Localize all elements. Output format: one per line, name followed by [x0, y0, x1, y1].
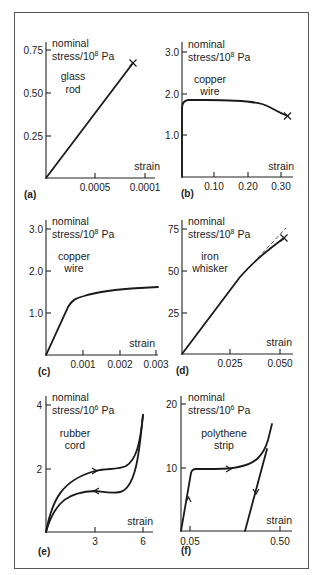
- y-tick-label: 2.0: [165, 89, 179, 100]
- material-label: cord: [65, 439, 86, 451]
- panel-e: 4 2 3 6 nominal stress/106 Pa rubber cor…: [36, 391, 153, 557]
- y-tick-label: 0.50: [24, 88, 44, 99]
- y-axis-title: nominal: [52, 37, 89, 49]
- fracture-mark-icon: [130, 60, 137, 67]
- x-tick-label: 3: [92, 536, 98, 547]
- material-label: copper: [58, 250, 91, 262]
- y-tick-label: 3.0: [29, 224, 43, 235]
- panel-f: 20 10 0.05 0.50 nominal stress/106 Pa po…: [166, 391, 292, 556]
- material-label: wire: [63, 262, 83, 274]
- y-axis-title: nominal: [52, 391, 89, 403]
- panel-label: (e): [38, 546, 50, 557]
- y-tick-label: 50: [168, 266, 180, 277]
- x-tick-label: 0.050: [267, 358, 292, 369]
- material-label: copper: [194, 73, 227, 85]
- panel-label: (f): [181, 545, 191, 556]
- y-tick-label: 75: [168, 224, 180, 235]
- stress-strain-figure: 0.75 0.50 0.25 0.0005 0.0001 nominal str…: [0, 0, 315, 575]
- y-axis-title: nominal: [188, 391, 225, 403]
- y-axis-title: nominal: [52, 215, 89, 227]
- x-axis-title: strain: [127, 515, 153, 527]
- x-tick-label: 0.20: [238, 181, 258, 192]
- y-tick-label: 2: [36, 464, 42, 475]
- y-tick-label: 20: [166, 399, 178, 410]
- panel-c: 3.0 2.0 1.0 0.001 0.002 0.003 nominal st…: [29, 215, 169, 377]
- material-label: polythene: [201, 427, 247, 439]
- y-tick-label: 0.75: [24, 45, 44, 56]
- y-axis-unit: stress/108 Pa: [52, 228, 114, 240]
- y-tick-label: 1.0: [165, 130, 179, 141]
- x-axis-title: strain: [129, 337, 155, 349]
- panel-a: 0.75 0.50 0.25 0.0005 0.0001 nominal str…: [24, 37, 161, 200]
- y-axis-title: nominal: [188, 38, 225, 50]
- y-axis-title: nominal: [188, 215, 225, 227]
- y-axis-unit: stress/108 Pa: [188, 228, 250, 240]
- x-tick-label: 0.025: [217, 358, 242, 369]
- material-label: glass: [61, 70, 86, 82]
- x-tick-label: 0.002: [107, 359, 132, 370]
- y-tick-label: 0.25: [24, 131, 44, 142]
- material-label: strip: [214, 439, 234, 451]
- panel-label: (a): [24, 189, 36, 200]
- x-axis-title: strain: [266, 336, 292, 348]
- y-tick-label: 3.0: [165, 47, 179, 58]
- x-tick-label: 0.50: [270, 536, 290, 547]
- panel-label: (c): [38, 366, 50, 377]
- x-tick-label: 0.10: [204, 181, 224, 192]
- x-tick-label: 0.30: [271, 181, 291, 192]
- x-axis-title: strain: [266, 514, 292, 526]
- x-axis-title: strain: [134, 160, 160, 172]
- material-label: rubber: [60, 427, 91, 439]
- y-axis-unit: stress/106 Pa: [52, 404, 114, 416]
- panel-b: 3.0 2.0 1.0 0.10 0.20 0.30 nominal stres…: [165, 38, 294, 199]
- x-tick-label: 0.001: [70, 359, 95, 370]
- material-label: iron: [201, 250, 219, 262]
- x-axis-title: strain: [268, 160, 294, 172]
- material-label: wire: [199, 85, 219, 97]
- panel-d: 75 50 25 0.025 0.050 nominal stress/108 …: [168, 215, 293, 376]
- y-tick-label: 2.0: [29, 266, 43, 277]
- x-tick-label: 0.003: [143, 359, 168, 370]
- material-label: rod: [65, 83, 80, 95]
- y-tick-label: 10: [166, 463, 178, 474]
- fracture-mark-icon: [284, 113, 291, 120]
- panel-label: (b): [181, 188, 194, 199]
- y-axis-unit: stress/108 Pa: [52, 50, 114, 62]
- unloading-curve: [245, 449, 267, 531]
- x-tick-label: 6: [140, 536, 146, 547]
- panel-label: (d): [176, 365, 189, 376]
- y-tick-label: 4: [36, 400, 42, 411]
- fracture-mark-icon: [281, 235, 288, 242]
- material-label: whisker: [191, 262, 228, 274]
- y-tick-label: 25: [168, 308, 180, 319]
- x-tick-label: 0.0001: [130, 182, 161, 193]
- y-axis-unit: stress/106 Pa: [188, 404, 250, 416]
- x-tick-label: 0.0005: [80, 182, 111, 193]
- stress-strain-curve: [46, 63, 133, 178]
- y-tick-label: 1.0: [29, 308, 43, 319]
- y-axis-unit: stress/108 Pa: [188, 51, 250, 63]
